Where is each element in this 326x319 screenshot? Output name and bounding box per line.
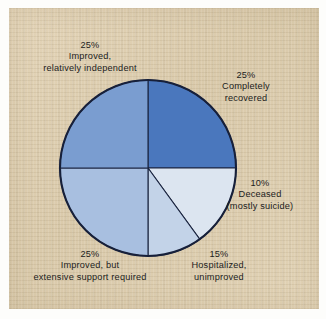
slice-percent-improved-relatively-independent: 25% [16, 40, 164, 51]
slice-label-line2-hospitalized-unimproved: unimproved [165, 272, 273, 283]
pie-chart-figure: 25% Improved, relatively independent 25%… [0, 0, 326, 319]
slice-percent-completely-recovered: 25% [190, 70, 302, 81]
slice-label-line1-completely-recovered: Completely [190, 81, 302, 92]
slice-label-line1-deceased: Deceased [200, 189, 320, 200]
slice-label-completely-recovered: 25% Completely recovered [190, 70, 302, 104]
slice-label-improved-extensive-support: 25% Improved, but extensive support requ… [14, 249, 166, 283]
slice-label-improved-relatively-independent: 25% Improved, relatively independent [16, 40, 164, 74]
slice-label-line2-improved-extensive-support: extensive support required [14, 272, 166, 283]
slice-percent-hospitalized-unimproved: 15% [165, 249, 273, 260]
slice-label-line2-improved-relatively-independent: relatively independent [16, 63, 164, 74]
slice-label-line1-hospitalized-unimproved: Hospitalized, [165, 260, 273, 271]
slice-percent-improved-extensive-support: 25% [14, 249, 166, 260]
slice-percent-deceased: 10% [200, 178, 320, 189]
slice-label-line1-improved-extensive-support: Improved, but [14, 260, 166, 271]
slice-label-line1-improved-relatively-independent: Improved, [16, 51, 164, 62]
slice-label-hospitalized-unimproved: 15% Hospitalized, unimproved [165, 249, 273, 283]
pie-slice-improved-extensive-support[interactable] [60, 168, 148, 256]
slice-label-deceased: 10% Deceased (mostly suicide) [200, 178, 320, 212]
slice-label-line2-deceased: (mostly suicide) [200, 201, 320, 212]
pie-slice-improved-relatively-independent[interactable] [60, 80, 148, 168]
slice-label-line2-completely-recovered: recovered [190, 93, 302, 104]
